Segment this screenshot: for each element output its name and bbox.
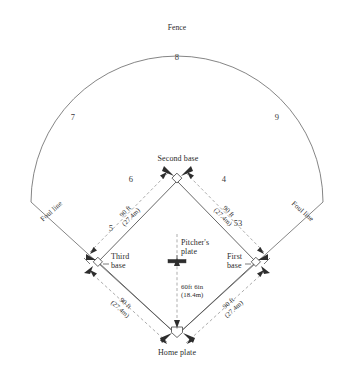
pitchers-plate-label-line2: plate <box>181 248 209 257</box>
mound-distance-metric: (18.4m) <box>181 291 203 299</box>
dim-arrow-second-third-a <box>160 172 167 179</box>
position-right-field: 9 <box>275 113 279 122</box>
baseball-field-diagram: Fence 7 8 9 6 4 5 53 Second base Third b… <box>0 0 353 376</box>
pitchers-plate-label: Pitcher's plate <box>181 239 209 257</box>
first-base-label: First base <box>227 253 242 271</box>
third-base-leader-arrow <box>86 254 96 260</box>
mound-distance-feet: 60ft 6in <box>181 283 203 291</box>
position-third-baseman: 5 <box>109 224 113 233</box>
position-second-baseman: 4 <box>222 175 226 184</box>
second-base-marker <box>172 173 182 183</box>
third-base-label-line2: base <box>111 262 129 271</box>
position-shortstop: 6 <box>129 175 133 184</box>
position-left-field: 7 <box>71 113 75 122</box>
third-base-label: Third base <box>111 253 129 271</box>
position-center-field: 8 <box>175 53 179 62</box>
second-base-label: Second base <box>158 155 199 163</box>
fence-label: Fence <box>168 24 187 32</box>
first-base-label-line2: base <box>227 262 242 271</box>
mound-distance-label: 60ft 6in (18.4m) <box>181 283 203 298</box>
first-base-leader-arrow <box>258 254 268 260</box>
home-plate-label: Home plate <box>158 349 196 357</box>
